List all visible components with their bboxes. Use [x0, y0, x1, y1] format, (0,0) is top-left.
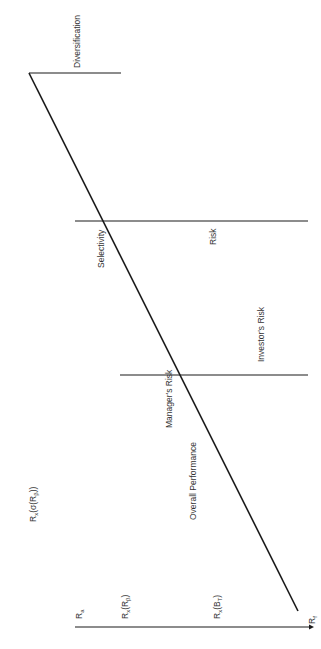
overall-performance-label: Overall Performance: [188, 442, 198, 520]
rx-sigma-label: Rx(σ(Rβ)): [28, 487, 39, 522]
managers-risk-label: Manager's Risk: [164, 369, 174, 428]
performance-diagram: Diversification Selectivity Risk Investo…: [0, 0, 321, 649]
rf-label: Rf: [307, 616, 318, 624]
ra-label: Ra: [74, 609, 85, 619]
rx-rb-label: Rx(Rβ): [120, 594, 131, 619]
investors-risk-label: Investor's Risk: [256, 306, 266, 362]
axis-arrow-icon: [309, 625, 314, 630]
rx-bt-label: Rx(BT): [212, 595, 223, 619]
selectivity-label: Selectivity: [96, 229, 106, 268]
diversification-label: Diversification: [72, 15, 82, 68]
risk-label: Risk: [208, 228, 218, 245]
